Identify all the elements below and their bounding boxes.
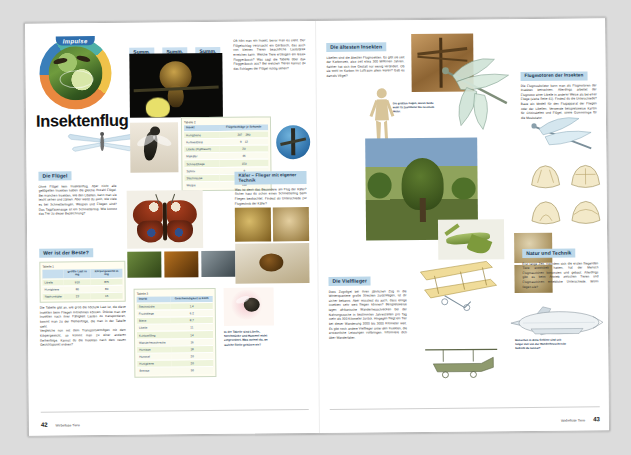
dragonfly-illustration (436, 53, 521, 134)
table1-col-0 (42, 269, 63, 279)
oldest-text: Libellen sind die ältesten Fluginsekten.… (326, 55, 404, 79)
table3: Insekt Geschwindigkeit in km/h Stechmück… (137, 296, 214, 374)
photo-butterfly (127, 190, 204, 249)
human-scale-silhouette (369, 86, 396, 144)
ant-icon (76, 54, 91, 62)
page-title: Insektenflug (36, 111, 129, 131)
many-text: Dass Zugvögel bei ihren jährlichen Zug i… (329, 289, 407, 341)
table3-label: Tabelle 3 (137, 291, 213, 296)
tech-heading: Natur und Technik (522, 249, 575, 259)
scan-background: Impulse Insektenflug Summ. Summ. Summ. O… (0, 0, 631, 455)
photo-insect-blue (276, 125, 310, 159)
tech-section: Natur und Technik Erst lange Zeit, nachd… (522, 240, 598, 289)
page-number-left: 42 (41, 422, 48, 428)
photo-beetle-flight (235, 243, 309, 284)
dragonfly-decoration (66, 130, 138, 157)
table1-cell: 23 (64, 293, 91, 300)
right-page: Die ältesten Insekten Libellen sind die … (315, 18, 610, 433)
footer-rule-right (330, 406, 600, 409)
table3-cell: 50 (171, 367, 213, 374)
left-page: Impulse Insektenflug Summ. Summ. Summ. O… (25, 21, 319, 436)
wings-section: Die Flügel Ohne Flügel kein Insektenflug… (38, 163, 117, 217)
photo-bee-dark (129, 53, 223, 118)
table3-cell: Bremse (137, 367, 171, 374)
table1-label: Tabelle 1 (42, 263, 122, 268)
biplane-illustration (414, 255, 501, 318)
many-section: Die Vielflieger Dass Zugvögel bei ihren … (328, 268, 407, 340)
table3-row: Bremse50 (137, 367, 213, 374)
intro-text: Oft hört man ein Insekt, bevor man es si… (233, 38, 305, 71)
photo-fly (130, 122, 178, 172)
beetle-section: Käfer – Flieger mit eigener Technik Was … (234, 171, 306, 206)
footer-chapter-left: Wirbellose Tiere (56, 423, 80, 427)
table1-cell: Nashornkäfer (43, 293, 64, 300)
many-heading: Die Vielflieger (328, 276, 371, 286)
flight-muscle-diagram-3 (528, 197, 564, 229)
beetle-heading: Käfer – Flieger mit eigener Technik (234, 171, 306, 185)
table1-col-2: Körpergewicht in mg (90, 268, 122, 278)
table2-label: Tabelle 2 (184, 119, 268, 124)
photo-beetle-1 (235, 207, 271, 241)
wings-text: Ohne Flügel kein Insektenflug. Aber nich… (39, 183, 117, 216)
table2-cell: Wespe (185, 181, 221, 188)
table3-container: Tabelle 3 Insekt Geschwindigkeit in km/h… (134, 288, 217, 377)
tech-text: Erst lange Zeit, nachdem sich die ersten… (522, 261, 598, 290)
footer-left: 42 Wirbellose Tiere (41, 421, 80, 427)
oldest-section: Die ältesten Insekten Libellen sind die … (326, 34, 404, 78)
photo-beetle-2 (273, 207, 309, 241)
helicopter-illustration (423, 341, 503, 382)
footer-chapter-right: Wirbellose Tiere (561, 418, 585, 422)
flight-muscle-diagram-1 (527, 161, 563, 193)
best-text: Die Tabelle gibt an, wie groß die höchst… (40, 305, 126, 348)
table1-row: Nashornkäfer2315 (43, 292, 123, 299)
zeppelin-illustration (515, 304, 603, 345)
page-number-right: 43 (593, 416, 600, 422)
oldest-heading: Die ältesten Insekten (326, 42, 386, 52)
footer-rule-left (41, 409, 309, 412)
beetle-text: Was ist denn das Besondere am Flug der K… (235, 187, 307, 206)
impulse-logo: Impulse (39, 37, 112, 110)
textbook-spread: Impulse Insektenflug Summ. Summ. Summ. O… (24, 17, 610, 437)
dragonfly-illustration-right (529, 114, 599, 163)
oldest-caption: Die größten nagen, waren beide wohl 75 Z… (393, 102, 437, 114)
motors-section: Flugmotoren der Insekten Die Flugmuskula… (520, 62, 597, 120)
table1-col-1: größte Last in mg (64, 269, 91, 279)
ant-icon (53, 57, 68, 65)
best-section: Wer ist der Beste? Tabelle 1 größte Last… (39, 240, 126, 348)
flight-muscle-diagram-2 (567, 160, 603, 192)
table1: größte Last in mg Körpergewicht in mg Li… (42, 268, 122, 299)
table1-cell: 15 (91, 292, 123, 299)
best-heading: Wer ist der Beste? (39, 248, 93, 258)
flight-muscle-diagram-4 (568, 196, 604, 228)
photo-grasshopper (438, 219, 504, 260)
wings-heading: Die Flügel (38, 171, 71, 181)
photo-fly-pink (224, 287, 274, 325)
photo-insect-grey (201, 251, 235, 277)
footer-right: Wirbellose Tiere 43 (561, 416, 600, 422)
photo-insect-orange (164, 251, 198, 277)
motors-heading: Flugmotoren der Insekten (521, 71, 588, 80)
logo-photo (48, 46, 103, 101)
photo-insect-green (127, 251, 161, 277)
table3-note: In der Tabelle sind Libelle, Stechmücke … (224, 329, 276, 346)
series-badge: Impulse (56, 36, 95, 45)
